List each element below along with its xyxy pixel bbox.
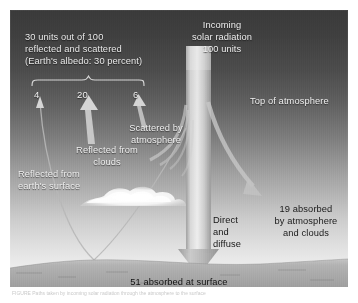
reflected-from-clouds-label: Reflected from clouds bbox=[56, 145, 158, 169]
direct-line-1: Direct bbox=[213, 215, 257, 227]
reflected-from-surface-label: Reflected from earth's surface bbox=[18, 169, 110, 193]
albedo-line-2: reflected and scattered bbox=[25, 44, 142, 56]
absorbed-at-surface-label: 51 absorbed at surface bbox=[10, 277, 348, 287]
figure-caption: FIGURE Paths taken by incoming solar rad… bbox=[12, 290, 348, 302]
absorbed19-line-2: by atmosphere bbox=[262, 216, 348, 228]
incoming-line-3: 100 units bbox=[169, 44, 275, 56]
albedo-text-block: 30 units out of 100 reflected and scatte… bbox=[25, 32, 142, 68]
refl-clouds-line-1: Reflected from bbox=[56, 145, 158, 157]
albedo-brace-icon bbox=[32, 76, 144, 86]
incoming-line-1: Incoming bbox=[169, 20, 275, 32]
refl-surface-line-1: Reflected from bbox=[18, 169, 110, 181]
solar-radiation-diagram: 30 units out of 100 reflected and scatte… bbox=[10, 10, 348, 287]
incoming-radiation-label: Incoming solar radiation 100 units bbox=[169, 20, 275, 56]
value-reflected-clouds: 20 bbox=[77, 89, 88, 101]
value-scattered-atmosphere: 6 bbox=[133, 89, 138, 101]
scattered-line-1: Scattered by bbox=[117, 123, 195, 135]
albedo-line-1: 30 units out of 100 bbox=[25, 32, 142, 44]
albedo-line-3: (Earth's albedo: 30 percent) bbox=[25, 56, 142, 68]
reflected-clouds-arrow-icon bbox=[80, 95, 98, 144]
incoming-line-2: solar radiation bbox=[169, 32, 275, 44]
absorbed19-line-3: and clouds bbox=[262, 228, 348, 240]
direct-line-3: diffuse bbox=[213, 239, 257, 251]
direct-and-diffuse-label: Direct and diffuse bbox=[213, 215, 257, 251]
absorbed-atmosphere-arrow-icon bbox=[208, 102, 262, 196]
top-of-atmosphere-label: Top of atmosphere bbox=[250, 96, 329, 108]
scattered-by-atmosphere-label: Scattered by atmosphere bbox=[117, 123, 195, 147]
absorbed19-line-1: 19 absorbed bbox=[262, 204, 348, 216]
figure-root: 30 units out of 100 reflected and scatte… bbox=[0, 0, 358, 303]
refl-surface-line-2: earth's surface bbox=[18, 181, 110, 193]
refl-clouds-line-2: clouds bbox=[56, 157, 158, 169]
absorbed-by-atmosphere-label: 19 absorbed by atmosphere and clouds bbox=[262, 204, 348, 240]
direct-line-2: and bbox=[213, 227, 257, 239]
value-reflected-surface: 4 bbox=[34, 89, 39, 101]
